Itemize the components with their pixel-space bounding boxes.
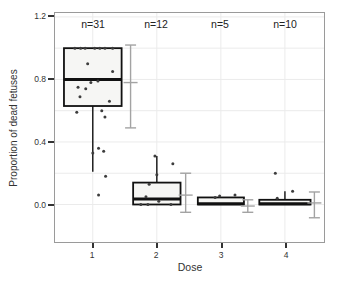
data-point — [144, 195, 147, 198]
data-point — [100, 109, 103, 112]
boxplot-figure: Proportion of dead fetuses 1.2 0.8 0.4 0… — [0, 0, 340, 288]
data-point — [169, 203, 172, 206]
data-point — [155, 173, 158, 176]
data-point — [291, 190, 294, 193]
data-point — [148, 183, 151, 186]
data-point — [233, 194, 236, 197]
y-tick-label: 0.4 — [18, 137, 46, 147]
x-tick-mark — [221, 243, 223, 248]
data-point — [91, 151, 94, 154]
data-point — [102, 150, 105, 153]
data-point — [146, 203, 149, 206]
x-axis-title: Dose — [178, 261, 203, 273]
y-tick-label: 1.2 — [18, 11, 46, 21]
y-axis-title: Proportion of dead fetuses — [8, 69, 19, 186]
data-point — [97, 194, 100, 197]
sample-size-label: n=10 — [273, 18, 297, 30]
data-point — [96, 79, 99, 82]
data-point — [98, 47, 101, 50]
data-point — [97, 147, 100, 150]
sample-size-label: n=31 — [81, 18, 105, 30]
data-point — [276, 197, 279, 200]
x-tick-mark — [285, 243, 287, 248]
data-point — [218, 194, 221, 197]
data-point — [157, 200, 160, 203]
data-point — [84, 47, 87, 50]
box — [133, 183, 180, 205]
x-tick-mark — [92, 243, 94, 248]
x-tick-label: 1 — [82, 250, 102, 260]
data-point — [108, 100, 111, 103]
data-point — [139, 203, 142, 206]
boxplot-canvas — [55, 13, 324, 242]
y-tick-label: 0.8 — [18, 74, 46, 84]
y-tick-label: 0.0 — [18, 200, 46, 210]
data-point — [89, 81, 92, 84]
data-point — [84, 87, 87, 90]
data-point — [79, 47, 82, 50]
x-tick-label: 4 — [276, 250, 296, 260]
data-point — [86, 62, 89, 65]
data-point — [111, 47, 114, 50]
sample-size-label: n=12 — [144, 18, 168, 30]
data-point — [103, 47, 106, 50]
data-point — [104, 175, 107, 178]
x-tick-mark — [156, 243, 158, 248]
sample-size-label: n=5 — [211, 18, 229, 30]
data-point — [274, 172, 277, 175]
data-point — [77, 86, 80, 89]
data-point — [93, 47, 96, 50]
data-point — [78, 95, 81, 98]
data-point — [73, 47, 76, 50]
data-point — [103, 115, 106, 118]
data-point — [111, 70, 114, 73]
plot-area — [54, 12, 325, 243]
x-tick-label: 3 — [211, 250, 231, 260]
x-tick-label: 2 — [146, 250, 166, 260]
data-point — [171, 162, 174, 165]
box — [64, 48, 122, 106]
data-point — [75, 111, 78, 114]
data-point — [214, 196, 217, 199]
data-point — [153, 155, 156, 158]
